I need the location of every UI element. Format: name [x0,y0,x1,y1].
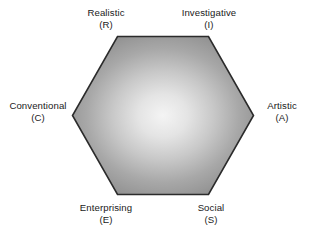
vertex-code-social: (S) [180,214,242,226]
vertex-code-artistic: (A) [258,112,306,124]
vertex-label-conventional: Conventional (C) [2,100,74,123]
vertex-code-conventional: (C) [2,112,74,124]
vertex-label-enterprising: Enterprising (E) [62,202,150,225]
vertex-code-enterprising: (E) [62,214,150,226]
vertex-name-realistic: Realistic [66,7,146,19]
vertex-name-investigative: Investigative [165,7,253,19]
vertex-code-realistic: (R) [66,19,146,31]
vertex-name-conventional: Conventional [2,100,74,112]
vertex-label-social: Social (S) [180,202,242,225]
riasec-hexagon-figure: Realistic (R) Investigative (I) Artistic… [0,0,309,233]
vertex-name-artistic: Artistic [258,100,306,112]
vertex-label-investigative: Investigative (I) [165,7,253,30]
vertex-label-realistic: Realistic (R) [66,7,146,30]
hexagon-polygon [73,37,254,195]
vertex-name-social: Social [180,202,242,214]
vertex-name-enterprising: Enterprising [62,202,150,214]
vertex-code-investigative: (I) [165,19,253,31]
vertex-label-artistic: Artistic (A) [258,100,306,123]
